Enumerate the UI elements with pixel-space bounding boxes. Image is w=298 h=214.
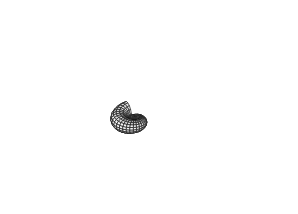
shell-facet: [130, 128, 134, 131]
shell-facet: [130, 125, 134, 128]
shell-facet: [133, 125, 136, 128]
shell-wireframe: [0, 0, 298, 214]
